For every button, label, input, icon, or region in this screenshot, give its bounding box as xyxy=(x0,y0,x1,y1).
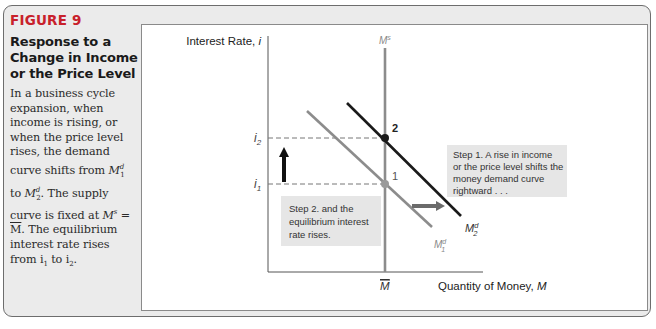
arrow-up-icon xyxy=(279,147,289,157)
md2-label: Md2 xyxy=(465,221,479,238)
mbar-tick-label: M xyxy=(380,280,390,292)
money-market-chart: Interest Rate, i i2 i1 Step 2. and the e… xyxy=(0,0,656,329)
i2-tick-label: i2 xyxy=(254,131,262,147)
y-axis-label: Interest Rate, i xyxy=(186,35,261,47)
i1-tick-label: i1 xyxy=(254,177,261,193)
md1-label: Md1 xyxy=(434,238,447,253)
arrow-right-icon xyxy=(436,201,445,211)
point-2-label: 2 xyxy=(392,122,398,134)
point-1-label: 1 xyxy=(392,170,398,182)
ms-label: Ms xyxy=(379,34,391,46)
equilibrium-point-2 xyxy=(381,134,389,142)
x-axis-label: Quantity of Money, M xyxy=(438,280,547,292)
equilibrium-point-1 xyxy=(381,180,389,188)
